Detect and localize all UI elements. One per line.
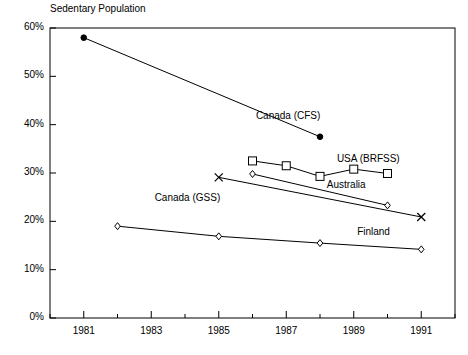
x-axis-tick-label: 1987 [266, 325, 306, 336]
series-canada-cfs [81, 35, 323, 140]
data-point-finland [115, 223, 121, 230]
plot-area [0, 0, 468, 355]
data-point-usa-brfss [384, 169, 392, 177]
data-point-canada-cfs [317, 134, 323, 140]
series-line-canada-gss [219, 177, 422, 217]
data-point-usa-brfss [350, 165, 358, 173]
data-point-australia [250, 170, 256, 177]
series-label-canada-cfs: Canada (CFS) [256, 110, 320, 121]
y-axis-tick-label: 20% [8, 214, 44, 225]
x-axis-tick-label: 1991 [401, 325, 441, 336]
data-point-australia [385, 202, 391, 209]
data-point-finland [216, 233, 222, 240]
y-axis-tick-label: 40% [8, 118, 44, 129]
y-axis-tick-label: 10% [8, 263, 44, 274]
x-axis-tick-label: 1985 [199, 325, 239, 336]
data-point-finland [418, 246, 424, 253]
y-axis-tick-label: 60% [8, 21, 44, 32]
data-point-usa-brfss [249, 157, 257, 165]
y-axis-tick-label: 0% [8, 311, 44, 322]
y-axis-tick-label: 30% [8, 166, 44, 177]
series-label-australia: Australia [327, 179, 366, 190]
data-point-canada-cfs [81, 35, 87, 41]
x-axis-tick-label: 1981 [64, 325, 104, 336]
x-axis-tick-label: 1983 [131, 325, 171, 336]
chart-container: Sedentary Population 0%10%20%30%40%50%60… [0, 0, 468, 355]
data-point-usa-brfss [282, 162, 290, 170]
data-point-usa-brfss [316, 172, 324, 180]
series-label-finland: Finland [357, 226, 390, 237]
series-line-canada-cfs [84, 38, 320, 137]
data-point-finland [317, 240, 323, 247]
data-point-canada-gss [417, 213, 425, 221]
x-axis-tick-label: 1989 [334, 325, 374, 336]
series-label-canada-gss: Canada (GSS) [155, 192, 221, 203]
data-point-canada-gss [215, 173, 223, 181]
y-axis-tick-label: 50% [8, 69, 44, 80]
series-label-usa-brfss: USA (BRFSS) [337, 153, 400, 164]
